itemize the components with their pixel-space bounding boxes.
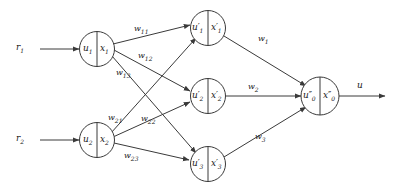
node-u1p-label: u′1 (192, 23, 203, 32)
input-r2-label: r2 (16, 134, 24, 143)
weight-w1-label: w1 (258, 35, 269, 43)
weight-w13-label: w13 (116, 69, 131, 77)
edge-w11 (113, 25, 190, 44)
weight-w3-label: w3 (255, 133, 266, 141)
input-r1-label: r1 (16, 43, 24, 52)
node-u3p-label: u′3 (192, 159, 203, 168)
node-x2-label: x2 (100, 135, 109, 144)
weight-w21-label: w21 (108, 114, 123, 122)
node-x1p-label: x′1 (211, 23, 222, 32)
weight-w23-label: w23 (124, 152, 139, 160)
edge-w3 (224, 107, 306, 157)
node-x2p-label: x′2 (211, 91, 222, 100)
node-u2-label: u2 (83, 135, 93, 144)
node-x3p-label: x′3 (211, 159, 222, 168)
weight-w12-label: w12 (138, 52, 153, 60)
node-u0pp-label: u″0 (303, 91, 316, 100)
node-x1-label: x1 (100, 44, 109, 53)
weight-w2-label: w2 (248, 83, 259, 91)
weight-w11-label: w11 (134, 25, 149, 33)
node-u1-label: u1 (83, 44, 93, 53)
neural-network-diagram: r1 r2 u1 x1 u2 x2 u′1 x′1 u′2 x′2 u′3 x′… (0, 0, 394, 193)
weight-w22-label: w22 (141, 115, 156, 123)
node-u2p-label: u′2 (192, 91, 203, 100)
node-x0pp-label: x″0 (323, 91, 335, 100)
output-u-label: u (357, 81, 363, 90)
